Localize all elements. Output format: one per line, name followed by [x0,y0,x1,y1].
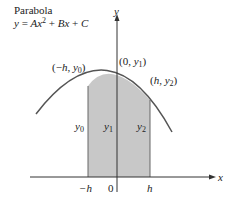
title-label: Parabola [14,4,52,16]
y-axis-label: y [114,5,119,17]
ordinate-y0-label: y0 [75,120,84,132]
point-mid-label: (0, y1) [119,55,146,67]
ordinate-y2-label: y2 [137,120,146,132]
tick-neg-h-label: −h [79,182,92,194]
ordinate-y1-label: y1 [104,120,113,132]
point-right-label: (h, y2) [150,74,177,86]
equation-label: y = Ax2 + Bx + C [14,17,88,29]
point-left-label: (−h, y0) [52,61,85,73]
tick-h-label: h [147,182,153,194]
x-axis-arrow-icon [209,175,216,180]
parabola-diagram [0,0,228,204]
x-axis-label: x [218,171,223,183]
tick-zero-label: 0 [108,182,114,194]
